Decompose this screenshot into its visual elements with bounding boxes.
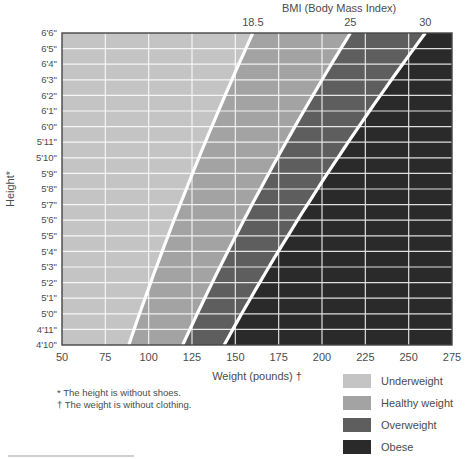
x-tick-label: 175 (269, 351, 287, 363)
y-tick-label: 5'5" (41, 230, 57, 241)
y-tick-label: 5'3" (41, 261, 57, 272)
footnotes: * The height is without shoes.† The weig… (57, 387, 191, 410)
legend-swatch-overweight (343, 418, 371, 432)
y-tick-label: 6'0" (41, 121, 57, 132)
footnote-line: * The height is without shoes. (57, 387, 191, 399)
y-tick-label: 5'2" (41, 277, 57, 288)
legend-swatch-underweight (343, 374, 371, 388)
y-tick-label: 5'8" (41, 183, 57, 194)
x-tick-label: 225 (356, 351, 374, 363)
y-tick-label: 5'7" (41, 199, 57, 210)
legend-swatch-obese (343, 440, 371, 454)
x-tick-label: 125 (183, 351, 201, 363)
x-tick-label: 100 (139, 351, 157, 363)
legend-row: Healthy weight (343, 392, 453, 414)
y-tick-label: 5'6" (41, 214, 57, 225)
x-tick-label: 75 (99, 351, 111, 363)
y-tick-label: 6'1" (41, 105, 57, 116)
y-tick-label: 5'9" (41, 168, 57, 179)
legend-row: Obese (343, 436, 453, 458)
x-tick-label: 200 (313, 351, 331, 363)
y-tick-label: 4'10" (36, 339, 57, 350)
y-tick-label: 5'1" (41, 292, 57, 303)
y-tick-label: 5'4" (41, 246, 57, 257)
bottom-divider (8, 455, 134, 457)
x-axis-label: Weight (pounds) † (212, 370, 302, 382)
legend-label: Underweight (381, 375, 443, 387)
legend-label: Obese (381, 441, 413, 453)
bmi-weight-height-chart: 6'6"6'5"6'4"6'3"6'2"6'1"6'0"5'11"5'10"5'… (0, 0, 466, 459)
y-tick-label: 6'3" (41, 74, 57, 85)
legend-swatch-healthy-weight (343, 396, 371, 410)
gridlines (62, 33, 452, 345)
x-tick-label: 275 (443, 351, 461, 363)
y-tick-label: 6'5" (41, 43, 57, 54)
y-tick-label: 6'6" (41, 27, 57, 38)
y-tick-label: 6'2" (41, 90, 57, 101)
legend-row: Underweight (343, 370, 453, 392)
y-tick-label: 5'0" (41, 308, 57, 319)
bmi-tick-label: 25 (344, 16, 356, 28)
chart-title: BMI (Body Mass Index) (282, 2, 396, 14)
legend-label: Healthy weight (381, 397, 453, 409)
y-tick-label: 5'10" (36, 152, 57, 163)
x-tick-label: 150 (226, 351, 244, 363)
legend-label: Overweight (381, 419, 437, 431)
y-tick-label: 5'11" (37, 136, 57, 147)
x-tick-label: 50 (56, 351, 68, 363)
footnote-line: † The weight is without clothing. (57, 399, 191, 411)
legend-row: Overweight (343, 414, 453, 436)
bmi-tick-label: 30 (419, 16, 431, 28)
legend: UnderweightHealthy weightOverweightObese (343, 370, 453, 458)
x-tick-label: 250 (399, 351, 417, 363)
y-tick-label: 4'11" (37, 324, 57, 335)
y-axis-label: Height* (4, 170, 16, 207)
y-tick-label: 6'4" (41, 58, 57, 69)
bmi-tick-label: 18.5 (242, 16, 263, 28)
